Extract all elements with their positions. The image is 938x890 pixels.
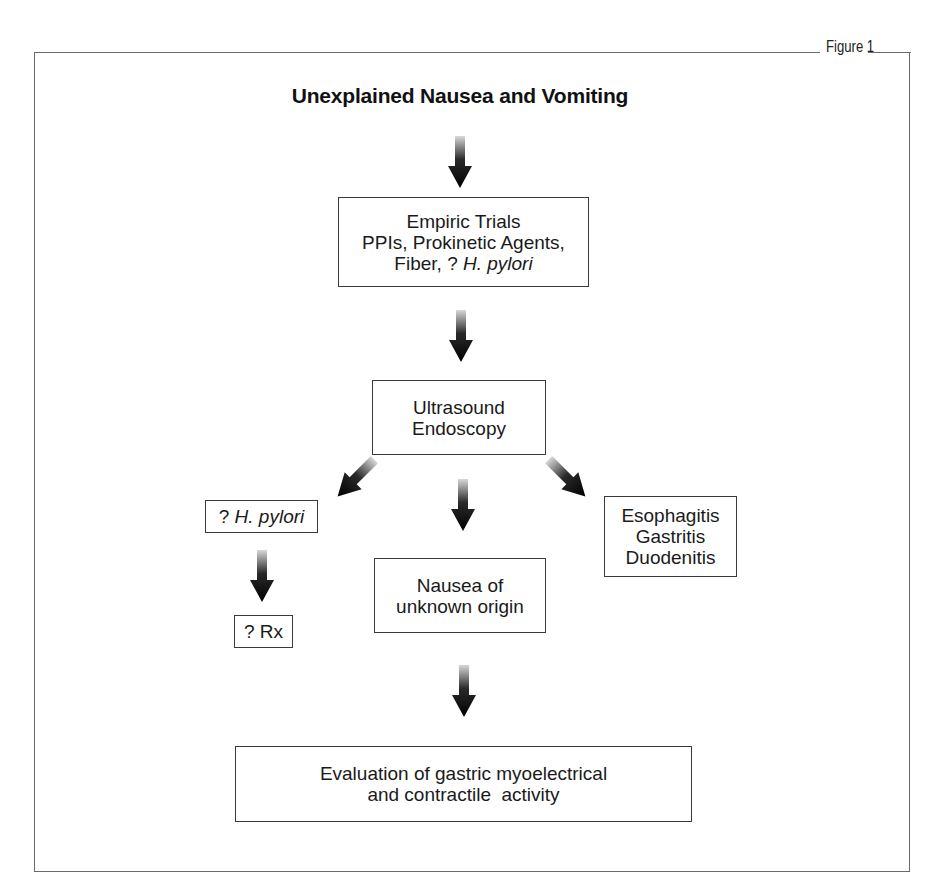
node-evaluation-line1: Evaluation of gastric myoelectrical (320, 763, 607, 784)
node-hpylori-prefix: ? (219, 506, 235, 527)
frame-top-rule (34, 52, 820, 53)
node-nausea-line2: unknown origin (396, 596, 524, 617)
node-inflammation-line3: Duodenitis (626, 547, 716, 568)
node-ultrasound-line2: Endoscopy (412, 418, 506, 439)
node-rx: ? Rx (234, 615, 293, 648)
down-arrow-icon (449, 310, 473, 362)
node-hpylori-italic: H. pylori (235, 506, 305, 527)
node-empiric-line1: Empiric Trials (406, 211, 520, 232)
down-arrow-icon (250, 550, 274, 602)
node-nausea-line1: Nausea of (417, 575, 504, 596)
node-inflammation-line1: Esophagitis (621, 505, 719, 526)
node-empiric-line3-prefix: Fiber, ? (394, 253, 463, 274)
down-arrow-icon (448, 136, 472, 188)
node-empiric-line3-italic: H. pylori (463, 253, 533, 274)
frame-top-rule-right (868, 52, 911, 53)
node-rx-label: ? Rx (244, 621, 283, 642)
node-empiric-line3: Fiber, ? H. pylori (394, 253, 532, 274)
node-esophagitis-gastritis-duodenitis: Esophagitis Gastritis Duodenitis (604, 496, 737, 577)
node-ultrasound-endoscopy: Ultrasound Endoscopy (372, 380, 546, 455)
node-empiric-trials: Empiric Trials PPIs, Prokinetic Agents, … (338, 197, 589, 287)
down-arrow-icon (452, 665, 476, 717)
node-h-pylori: ? H. pylori (205, 500, 318, 533)
down-arrow-icon (451, 479, 475, 531)
node-empiric-line2: PPIs, Prokinetic Agents, (362, 232, 565, 253)
node-nausea-unknown-origin: Nausea of unknown origin (374, 558, 546, 633)
node-evaluation-line2: and contractile activity (367, 784, 559, 805)
node-inflammation-line2: Gastritis (636, 526, 706, 547)
node-ultrasound-line1: Ultrasound (413, 397, 505, 418)
node-evaluation-gastric-activity: Evaluation of gastric myoelectrical and … (235, 746, 692, 822)
figure-label: Figure 1 (826, 38, 874, 56)
diagram-title: Unexplained Nausea and Vomiting (0, 84, 920, 108)
node-hpylori-label: ? H. pylori (219, 506, 305, 527)
